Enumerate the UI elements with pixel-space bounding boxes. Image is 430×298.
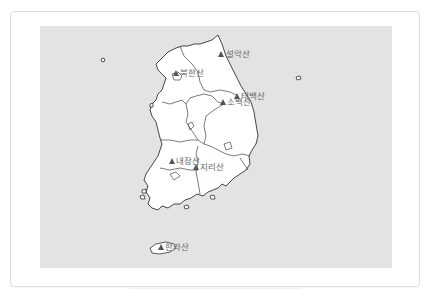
mountain-label: 한라산 <box>165 242 189 252</box>
mountain-label: 북한산 <box>180 68 204 78</box>
ulleungdo <box>296 76 301 80</box>
mainland <box>144 35 258 210</box>
southwest-islet <box>142 189 146 193</box>
korea-map: 설악산 북한산 태백산 소백산 내장산 지리산 한라산 <box>0 0 430 298</box>
west-islet <box>150 103 153 107</box>
mountain-label: 내장산 <box>176 156 200 166</box>
mountain-label: 지리산 <box>200 162 224 172</box>
baengnyeongdo <box>101 58 105 62</box>
south-islet <box>210 195 215 199</box>
mountain-label: 설악산 <box>226 49 250 59</box>
caption-divider <box>130 288 300 289</box>
southwest-islet <box>140 195 145 199</box>
south-islet <box>184 205 189 209</box>
mountain-label: 소백산 <box>227 97 251 107</box>
